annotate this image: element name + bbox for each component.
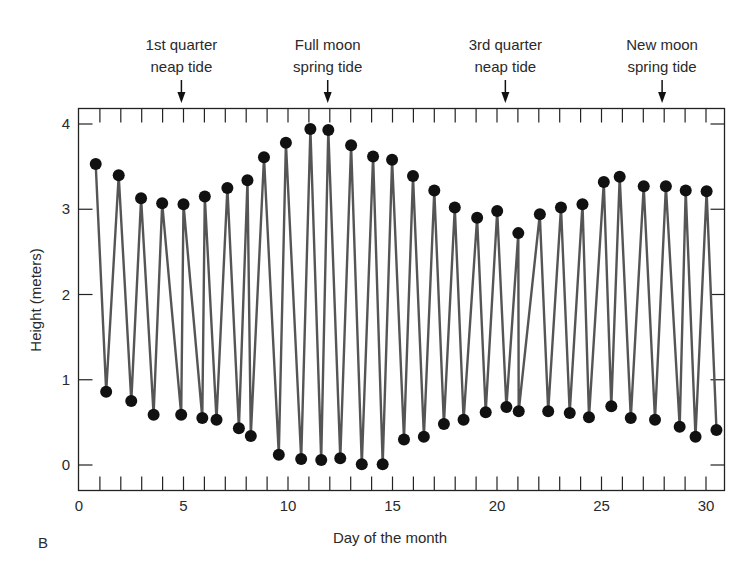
data-point [625, 412, 637, 424]
data-point [315, 454, 327, 466]
data-point [304, 123, 316, 135]
data-point [513, 405, 525, 417]
data-point [674, 421, 686, 433]
data-point [295, 453, 307, 465]
data-point [564, 407, 576, 419]
moon-phase-annotation: Full moonspring tide [293, 36, 362, 103]
arrowhead-icon [177, 92, 185, 103]
data-point [125, 395, 137, 407]
data-point [386, 154, 398, 166]
data-point [334, 452, 346, 464]
data-point [471, 212, 483, 224]
tide-series [90, 123, 723, 470]
data-point [241, 174, 253, 186]
plot-frame [79, 109, 725, 491]
data-point [480, 406, 492, 418]
data-point [660, 180, 672, 192]
annotation-line1: Full moon [295, 36, 361, 53]
data-point [100, 386, 112, 398]
data-point [512, 227, 524, 239]
y-tick-label: 4 [62, 115, 70, 132]
annotation-line2: spring tide [628, 58, 697, 75]
data-point [199, 190, 211, 202]
data-point [649, 414, 661, 426]
x-tick-label: 0 [75, 497, 83, 514]
data-point [598, 176, 610, 188]
y-tick-label: 2 [62, 286, 70, 303]
panel-label: B [38, 534, 48, 551]
data-point [148, 409, 160, 421]
x-tick-label: 15 [384, 497, 401, 514]
data-point [398, 433, 410, 445]
data-point [135, 192, 147, 204]
data-point [638, 180, 650, 192]
data-point [245, 430, 257, 442]
arrowhead-icon [658, 92, 666, 103]
x-tick-label: 25 [593, 497, 610, 514]
data-point [407, 170, 419, 182]
data-point [449, 202, 461, 214]
data-point [258, 151, 270, 163]
data-point [233, 422, 245, 434]
data-point [583, 411, 595, 423]
y-tick-label: 0 [62, 456, 70, 473]
data-point [690, 431, 702, 443]
data-point [605, 400, 617, 412]
annotation-line2: neap tide [474, 58, 536, 75]
data-point [322, 124, 334, 136]
arrowhead-icon [501, 92, 509, 103]
data-point [280, 137, 292, 149]
data-point [576, 198, 588, 210]
data-point [345, 139, 357, 151]
x-tick-label: 30 [698, 497, 715, 514]
y-axis-label: Height (meters) [27, 248, 44, 351]
data-point [113, 169, 125, 181]
moon-phase-annotation: 3rd quarterneap tide [469, 36, 542, 103]
data-point [175, 409, 187, 421]
data-point [458, 414, 470, 426]
annotation-line2: spring tide [293, 58, 362, 75]
annotation-line1: New moon [626, 36, 698, 53]
data-point [221, 182, 233, 194]
data-point [428, 184, 440, 196]
x-tick-label: 20 [489, 497, 506, 514]
data-point [701, 185, 713, 197]
moon-phase-annotation: 1st quarterneap tide [146, 36, 218, 103]
data-point [500, 401, 512, 413]
y-tick-label: 1 [62, 371, 70, 388]
data-point [491, 205, 503, 217]
annotation-line2: neap tide [151, 58, 213, 75]
data-point [273, 449, 285, 461]
arrowhead-icon [324, 92, 332, 103]
data-point [178, 198, 190, 210]
data-point [211, 414, 223, 426]
data-point [90, 158, 102, 170]
y-tick-label: 3 [62, 200, 70, 217]
annotation-line1: 3rd quarter [469, 36, 542, 53]
moon-phase-annotation: New moonspring tide [626, 36, 698, 103]
data-point [614, 171, 626, 183]
data-point [555, 202, 567, 214]
x-tick-label: 5 [179, 497, 187, 514]
data-point [356, 458, 368, 470]
data-point [196, 412, 208, 424]
moon-phase-annotations: 1st quarterneap tideFull moonspring tide… [146, 36, 698, 103]
data-point [438, 418, 450, 430]
tide-chart: 1st quarterneap tideFull moonspring tide… [0, 0, 752, 572]
data-point [367, 150, 379, 162]
data-point [156, 197, 168, 209]
data-point [710, 424, 722, 436]
x-tick-label: 10 [280, 497, 297, 514]
x-axis-label: Day of the month [333, 529, 447, 546]
data-point [418, 431, 430, 443]
data-point [534, 208, 546, 220]
annotation-line1: 1st quarter [146, 36, 218, 53]
data-point [377, 458, 389, 470]
data-point [680, 184, 692, 196]
data-point [542, 405, 554, 417]
